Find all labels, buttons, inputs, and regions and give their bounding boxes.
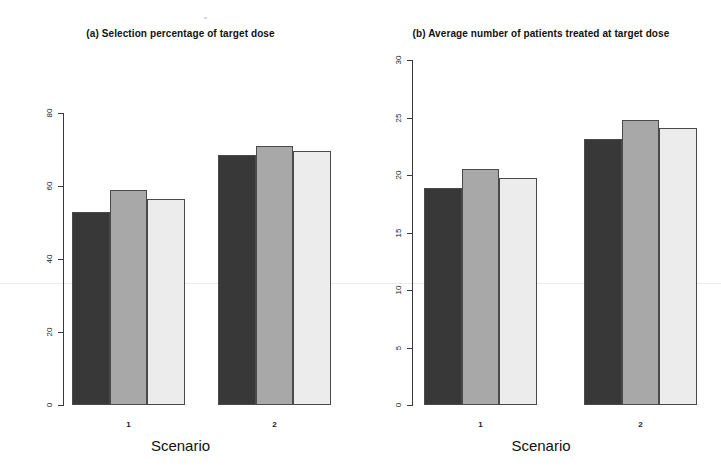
y-axis-tick-label: 0 bbox=[394, 403, 403, 407]
x-axis-category-label: 1 bbox=[126, 420, 130, 429]
y-axis-tick-label: 20 bbox=[394, 171, 403, 180]
y-axis-line bbox=[412, 60, 413, 405]
y-axis-tick bbox=[58, 332, 63, 333]
bar-2-series-1 bbox=[584, 139, 622, 405]
y-axis-foot bbox=[63, 405, 64, 406]
bar-1-series-3 bbox=[147, 199, 185, 405]
y-axis-tick bbox=[407, 348, 412, 349]
bar-2-series-2 bbox=[622, 120, 660, 405]
y-axis-tick-label: 10 bbox=[394, 286, 403, 295]
y-axis-tick-label: 60 bbox=[45, 182, 54, 191]
y-axis-tick bbox=[407, 60, 412, 61]
y-axis-tick-label: 20 bbox=[45, 328, 54, 337]
bar-1-series-1 bbox=[424, 188, 462, 405]
panel-a-plot-area: 02040608012 bbox=[0, 0, 361, 473]
y-axis-tick bbox=[407, 118, 412, 119]
bar-2-series-3 bbox=[293, 151, 331, 405]
bar-2-series-3 bbox=[659, 128, 697, 405]
y-axis-tick-label: 25 bbox=[394, 114, 403, 123]
bar-2-series-2 bbox=[256, 146, 294, 405]
bar-1-series-2 bbox=[462, 169, 500, 405]
y-axis-line bbox=[63, 113, 64, 405]
y-axis-foot bbox=[412, 405, 413, 406]
y-axis-tick-label: 5 bbox=[394, 346, 403, 350]
bar-1-series-3 bbox=[499, 178, 537, 405]
y-axis-tick bbox=[407, 233, 412, 234]
x-axis-category-label: 2 bbox=[272, 420, 276, 429]
x-axis-category-label: 2 bbox=[638, 420, 642, 429]
y-axis-tick bbox=[58, 186, 63, 187]
chart-panel-b: (b) Average number of patients treated a… bbox=[361, 0, 721, 473]
y-axis-tick bbox=[407, 290, 412, 291]
y-axis-tick bbox=[58, 259, 63, 260]
y-axis-tick-label: 30 bbox=[394, 56, 403, 65]
bar-1-series-1 bbox=[72, 212, 110, 405]
y-axis-tick bbox=[407, 175, 412, 176]
chart-panel-a: (a) Selection percentage of target dose … bbox=[0, 0, 361, 473]
bar-1-series-2 bbox=[110, 190, 148, 405]
y-axis-tick-label: 0 bbox=[45, 403, 54, 407]
y-axis-tick bbox=[58, 113, 63, 114]
panel-b-xaxis-title: Scenario bbox=[361, 437, 721, 454]
figure-canvas: (a) Selection percentage of target dose … bbox=[0, 0, 721, 473]
y-axis-tick-label: 80 bbox=[45, 109, 54, 118]
panel-b-plot-area: 05101520253012 bbox=[361, 0, 721, 473]
y-axis-tick-label: 15 bbox=[394, 229, 403, 238]
x-axis-category-label: 1 bbox=[478, 420, 482, 429]
y-axis-tick-label: 40 bbox=[45, 255, 54, 264]
bar-2-series-1 bbox=[218, 155, 256, 405]
panel-a-xaxis-title: Scenario bbox=[0, 437, 361, 454]
